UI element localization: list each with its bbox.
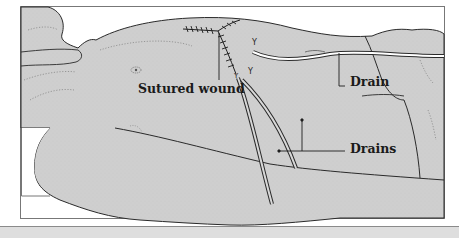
label-drains: Drains [350, 141, 396, 156]
label-drain: Drain [350, 74, 389, 89]
svg-text:Y: Y [247, 67, 253, 76]
svg-text:Y: Y [251, 38, 257, 47]
bottom-band [0, 226, 459, 238]
illustration-canvas: Y Y Y Sutured wound Drain Drains [0, 0, 459, 238]
label-sutured-wound: Sutured wound [138, 81, 245, 96]
svg-text:Y: Y [233, 72, 239, 80]
wound-drain-illustration: Y Y Y Sutured wound Drain Drains [0, 0, 459, 238]
